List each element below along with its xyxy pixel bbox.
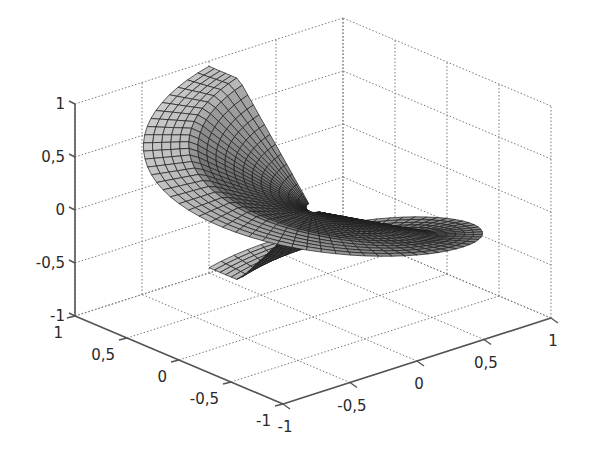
- x-tick-label: 0: [157, 368, 167, 386]
- grid-line: [343, 18, 551, 106]
- y-tick-label: 1: [548, 332, 558, 350]
- x-tick-label: -0,5: [190, 390, 219, 408]
- surface-patch: [162, 142, 171, 150]
- surface-patch: [153, 150, 163, 158]
- surface-patch: [180, 142, 189, 149]
- x-tick: [223, 382, 231, 384]
- x-tick: [275, 404, 283, 406]
- surface-plot-figure: 10,50-0,5-110,50-0,5-1-1-0,500,51: [0, 0, 594, 457]
- x-tick-label: 0,5: [91, 346, 115, 364]
- x-tick-label: 1: [53, 324, 63, 342]
- plot-canvas: 10,50-0,5-110,50-0,5-1-1-0,500,51: [0, 0, 594, 457]
- y-tick-label: -1: [278, 418, 293, 436]
- surface-patch: [144, 151, 154, 160]
- surface-patch: [144, 135, 154, 143]
- surface-patch: [171, 135, 181, 142]
- z-tick: [69, 101, 75, 104]
- z-tick-label: 0: [55, 201, 65, 219]
- surface-patch: [145, 158, 156, 167]
- surface-patch: [180, 135, 190, 142]
- z-tick-label: -0,5: [36, 254, 65, 272]
- surface-patch: [180, 148, 190, 156]
- y-tick: [283, 404, 290, 409]
- surface-patch: [171, 142, 180, 150]
- y-tick: [417, 361, 424, 366]
- surface-patch: [162, 135, 172, 143]
- y-tick: [350, 383, 357, 388]
- surface-patch: [162, 150, 172, 158]
- grid-line: [209, 273, 417, 361]
- y-tick-label: 0,5: [474, 354, 498, 372]
- surface-patch: [153, 142, 162, 150]
- surface-patch: [144, 143, 153, 151]
- z-tick-label: 1: [55, 95, 65, 113]
- z-tick: [69, 154, 75, 157]
- grid-line: [276, 252, 484, 340]
- surface-patch: [153, 135, 163, 143]
- y-tick: [551, 318, 558, 323]
- x-tick: [67, 316, 75, 318]
- z-tick-label: 0,5: [41, 148, 65, 166]
- y-tick-label: -0,5: [337, 397, 366, 415]
- tick-labels: 10,50-0,5-110,50-0,5-1-1-0,500,51: [36, 95, 558, 436]
- surface-mesh: [144, 66, 483, 279]
- y-tick-label: 0: [414, 375, 424, 393]
- z-tick: [69, 207, 75, 210]
- x-tick: [119, 338, 127, 340]
- y-tick: [484, 340, 491, 345]
- surface-patch: [171, 149, 181, 157]
- x-tick-label: -1: [256, 412, 271, 430]
- surface-patch: [181, 128, 192, 135]
- x-tick: [171, 360, 179, 362]
- z-tick: [69, 260, 75, 263]
- z-tick-label: -1: [50, 307, 65, 325]
